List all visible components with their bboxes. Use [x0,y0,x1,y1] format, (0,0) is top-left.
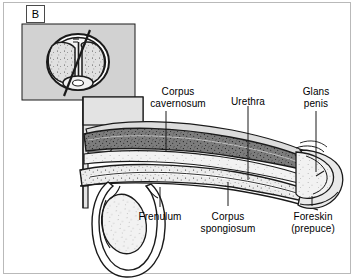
label-urethra-line1: Urethra [222,96,274,108]
label-corpus-spongiosum-line1: Corpus [199,211,257,223]
label-frenulum-line1: Frenulum [133,211,187,223]
inset-cross-section [22,24,135,100]
anatomy-figure: B [0,0,354,278]
label-foreskin: Foreskin (prepuce) [288,211,338,234]
label-corpus-cavernosum-line2: cavernosum [144,98,212,110]
label-corpus-spongiosum: Corpus spongiosum [199,211,257,234]
label-foreskin-line1: Foreskin [288,211,338,223]
label-urethra: Urethra [222,96,274,108]
label-frenulum: Frenulum [133,211,187,223]
label-glans-penis: Glans penis [294,86,338,109]
label-corpus-cavernosum: Corpus cavernosum [144,86,212,109]
scrotum-and-testis [92,182,165,277]
anatomy-drawing [0,0,354,278]
label-foreskin-line2: (prepuce) [288,223,338,235]
label-corpus-cavernosum-line1: Corpus [144,86,212,98]
label-glans-penis-line1: Glans [294,86,338,98]
glans-penis-structure [296,141,343,208]
label-corpus-spongiosum-line2: spongiosum [199,223,257,235]
label-glans-penis-line2: penis [294,98,338,110]
